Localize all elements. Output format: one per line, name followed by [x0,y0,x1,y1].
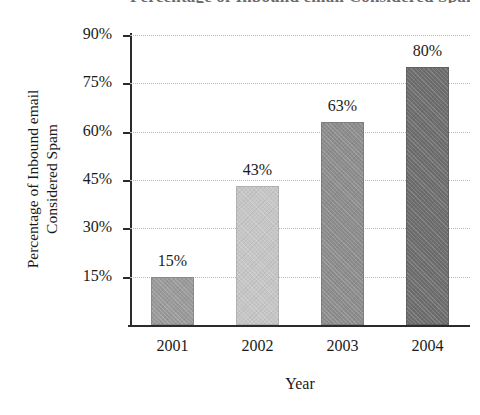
y-axis-tick-label: 60% [52,122,112,140]
y-axis-tick-label: 30% [52,218,112,236]
x-axis-tick-label: 2002 [218,337,298,355]
bar-value-label: 63% [308,97,378,115]
y-axis-tick [123,35,130,37]
bar [236,186,279,325]
bar-chart-figure: Percentage of Inbound email Considered S… [0,0,480,415]
x-axis-tick-label: 2001 [133,337,213,355]
y-axis-tick-label: 90% [52,25,112,43]
y-axis-tick [123,277,130,279]
bar [321,122,364,325]
plot-area [130,35,470,325]
y-axis-tick [123,228,130,230]
y-axis-tick-label: 15% [52,267,112,285]
x-axis-tick-label: 2003 [303,337,383,355]
x-axis-tick-label: 2004 [388,337,468,355]
x-axis-spine [128,325,470,327]
y-axis-tick [123,180,130,182]
gridline [130,35,470,36]
y-axis-title-line-1: Percentage of Inbound email [23,29,42,329]
chart-title: Percentage of Inbound email Considered S… [130,0,470,3]
bar-value-label: 43% [223,161,293,179]
y-axis-tick [123,132,130,134]
bar [151,277,194,325]
bar [406,67,449,325]
bar-value-label: 15% [138,252,208,270]
x-axis-title: Year [130,375,470,393]
y-axis-tick-label: 45% [52,170,112,188]
y-axis-tick [123,83,130,85]
y-axis-tick-label: 75% [52,73,112,91]
bar-value-label: 80% [393,42,463,60]
